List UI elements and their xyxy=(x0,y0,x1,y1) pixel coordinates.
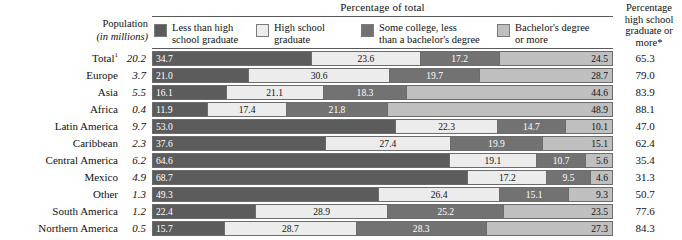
stacked-bar: 11.917.421.848.9 xyxy=(152,102,613,117)
stacked-bar: 16.121.118.344.6 xyxy=(152,85,613,100)
bar-segment-bachelors-or-more: 15.1 xyxy=(543,137,612,150)
bar-segment-high-school-graduate: 19.1 xyxy=(450,154,538,167)
bar-segment-some-college: 28.3 xyxy=(357,222,487,235)
bar-segment-bachelors-or-more: 9.3 xyxy=(569,188,612,201)
bar-segment-value: 34.7 xyxy=(156,52,173,65)
table-row: Total120.234.723.617.224.565.3 xyxy=(0,50,682,67)
legend-label-less-than-high-school: Less than high school graduate xyxy=(172,22,238,45)
table-row: Caribbean2.337.627.419.915.162.4 xyxy=(0,135,682,152)
row-pct-hs-grad-value: 62.4 xyxy=(617,136,673,151)
stacked-bar: 37.627.419.915.1 xyxy=(152,136,613,151)
bar-segment-value: 17.2 xyxy=(421,52,499,65)
row-population-value: 6.2 xyxy=(118,153,146,168)
bar-segment-value: 10.7 xyxy=(537,154,585,167)
legend-swatch-bachelors-or-more-icon xyxy=(497,24,510,37)
bar-segment-bachelors-or-more: 24.5 xyxy=(500,52,612,65)
bar-segment-value: 53.0 xyxy=(156,120,173,133)
chart-title: Percentage of total xyxy=(152,1,613,14)
bar-segment-bachelors-or-more: 27.3 xyxy=(487,222,612,235)
bar-segment-some-college: 9.5 xyxy=(547,171,591,184)
row-population-value: 0.5 xyxy=(118,221,146,236)
bar-segment-value: 9.5 xyxy=(547,171,590,184)
legend-swatch-some-college-icon xyxy=(361,24,374,37)
row-pct-hs-grad-value: 65.3 xyxy=(617,51,673,66)
row-label-northern-america: Northern America xyxy=(0,221,124,236)
bar-segment-value: 68.7 xyxy=(156,171,173,184)
population-header-line1: Population xyxy=(102,18,148,29)
bar-segment-value: 37.6 xyxy=(156,137,173,150)
bar-segment-some-college: 10.7 xyxy=(537,154,586,167)
bar-segment-bachelors-or-more: 5.6 xyxy=(586,154,612,167)
bar-segment-some-college: 18.3 xyxy=(324,86,408,99)
data-rows: Total120.234.723.617.224.565.3Europe3.72… xyxy=(0,50,682,237)
row-pct-hs-grad-value: 47.0 xyxy=(617,119,673,134)
bar-segment-value: 28.9 xyxy=(256,205,388,218)
bar-segment-some-college: 17.2 xyxy=(421,52,500,65)
legend: Less than high school graduateHigh schoo… xyxy=(152,20,613,48)
bar-segment-less-than-high-school: 64.6 xyxy=(153,154,450,167)
bar-segment-high-school-graduate: 30.6 xyxy=(249,69,389,82)
pct-hs-grad-column-header: Percentage high school graduate or more* xyxy=(617,2,681,48)
bar-segment-value: 27.4 xyxy=(326,137,451,150)
row-population-value: 20.2 xyxy=(118,51,146,66)
table-row: Central America6.264.619.110.75.635.4 xyxy=(0,152,682,169)
table-row: Northern America0.515.728.728.327.384.3 xyxy=(0,220,682,237)
stacked-bar: 21.030.619.728.7 xyxy=(152,68,613,83)
bar-segment-value: 21.8 xyxy=(287,103,386,116)
stacked-bar-table-figure: Percentage of total Population (in milli… xyxy=(0,0,682,240)
bar-segment-value: 14.7 xyxy=(498,120,564,133)
bar-segment-value: 9.3 xyxy=(596,188,608,201)
table-row: Africa0.411.917.421.848.988.1 xyxy=(0,101,682,118)
legend-rule-bottom xyxy=(152,48,613,49)
bar-segment-some-college: 25.2 xyxy=(388,205,504,218)
row-label-caribbean: Caribbean xyxy=(0,136,136,151)
row-label-africa: Africa xyxy=(0,102,124,117)
bar-segment-value: 24.5 xyxy=(591,52,608,65)
bar-segment-less-than-high-school: 68.7 xyxy=(153,171,468,184)
legend-item-some-college: Some college, less than a bachelor's deg… xyxy=(361,22,480,45)
table-row: Other1.349.326.415.19.350.7 xyxy=(0,186,682,203)
legend-label-some-college: Some college, less than a bachelor's deg… xyxy=(379,22,480,45)
row-pct-hs-grad-value: 88.1 xyxy=(617,102,673,117)
stacked-bar: 68.717.29.54.6 xyxy=(152,170,613,185)
row-population-value: 3.7 xyxy=(118,68,146,83)
stacked-bar: 64.619.110.75.6 xyxy=(152,153,613,168)
bar-segment-value: 27.3 xyxy=(591,222,608,235)
stacked-bar: 22.428.925.223.5 xyxy=(152,204,613,219)
bar-segment-high-school-graduate: 22.3 xyxy=(396,120,498,133)
row-population-value: 0.4 xyxy=(118,102,146,117)
row-pct-hs-grad-value: 77.6 xyxy=(617,204,673,219)
row-label-total: Total1 xyxy=(0,51,124,66)
stacked-bar: 15.728.728.327.3 xyxy=(152,221,613,236)
bar-segment-value: 15.1 xyxy=(500,188,568,201)
bar-segment-value: 28.7 xyxy=(591,69,608,82)
bar-segment-value: 19.1 xyxy=(450,154,537,167)
bar-segment-value: 21.1 xyxy=(227,86,323,99)
bar-segment-value: 17.2 xyxy=(468,171,546,184)
legend-label-high-school-graduate: High school graduate xyxy=(274,22,325,45)
bar-segment-value: 21.0 xyxy=(156,69,173,82)
stacked-bar: 49.326.415.19.3 xyxy=(152,187,613,202)
bar-segment-value: 26.4 xyxy=(379,188,499,201)
bar-segment-high-school-graduate: 17.2 xyxy=(468,171,547,184)
bar-segment-value: 15.7 xyxy=(156,222,173,235)
row-label-central-america: Central America xyxy=(0,153,136,168)
row-pct-hs-grad-value: 35.4 xyxy=(617,153,673,168)
bar-segment-value: 28.3 xyxy=(357,222,486,235)
row-pct-hs-grad-value: 79.0 xyxy=(617,68,673,83)
bar-segment-value: 48.9 xyxy=(591,103,608,116)
bar-segment-value: 18.3 xyxy=(324,86,407,99)
row-label-asia: Asia xyxy=(0,85,124,100)
bar-segment-value: 23.6 xyxy=(312,52,419,65)
bar-segment-value: 11.9 xyxy=(156,103,172,116)
bar-segment-value: 23.5 xyxy=(591,205,608,218)
bar-segment-bachelors-or-more: 28.7 xyxy=(480,69,612,82)
table-row: Asia5.516.121.118.344.683.9 xyxy=(0,84,682,101)
bar-segment-bachelors-or-more: 48.9 xyxy=(388,103,612,116)
bar-segment-some-college: 15.1 xyxy=(500,188,569,201)
row-population-value: 5.5 xyxy=(118,85,146,100)
row-pct-hs-grad-value: 83.9 xyxy=(617,85,673,100)
legend-swatch-high-school-graduate-icon xyxy=(256,24,269,37)
legend-item-less-than-high-school: Less than high school graduate xyxy=(154,22,238,45)
bar-segment-less-than-high-school: 37.6 xyxy=(153,137,326,150)
